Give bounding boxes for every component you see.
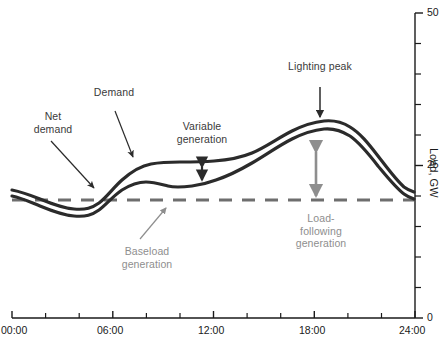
y-tick-label-50: 50 [427,6,439,18]
chart-plot-area [0,0,445,346]
demand-arrow [115,111,133,157]
annotation-variable-generation: Variable generation [166,120,238,145]
x-tick-label-06-00: 06:00 [97,324,123,336]
annotation-baseload-generation: Baseload generation [110,245,184,270]
annotation-lighting-peak: Lighting peak [277,60,363,73]
baseload-generation-arrow [140,208,166,239]
y-axis [415,13,423,318]
y-tick-label-0: 0 [427,311,433,323]
annotation-load-following-generation: Load- following generation [291,212,351,250]
x-tick-label-24-00: 24:00 [399,324,425,336]
x-axis [12,311,415,318]
chart-container: 00:00 06:00 12:00 18:00 24:00 0 25 50 Lo… [0,0,445,346]
x-tick-label-00-00: 00:00 [1,324,27,336]
annotation-net-demand: Net demand [25,110,81,135]
x-tick-label-18-00: 18:00 [299,324,325,336]
net-demand-arrow [51,141,94,188]
y-axis-title: Load, GW [428,148,440,198]
x-tick-label-12-00: 12:00 [198,324,224,336]
annotation-demand: Demand [82,86,146,99]
